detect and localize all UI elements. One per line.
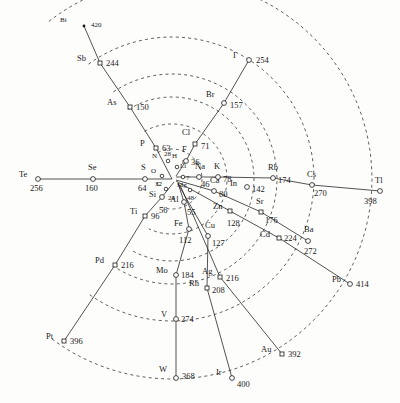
radial-line-mg-ca-sr-ba xyxy=(176,180,308,241)
periodic-spiral-figure: Bi420Sb244As150P63I254Br157Cl71F36N28H1T… xyxy=(0,0,400,403)
element-marker-si[interactable] xyxy=(160,195,165,200)
element-marker-f[interactable] xyxy=(184,159,189,164)
element-marker-bi[interactable] xyxy=(83,25,86,28)
element-marker-s[interactable] xyxy=(143,177,148,182)
element-marker-o[interactable] xyxy=(160,174,164,178)
element-marker-mg[interactable] xyxy=(188,188,192,192)
element-marker-pb[interactable] xyxy=(348,282,353,287)
element-marker-n[interactable] xyxy=(166,159,170,163)
radial-line-c-si-ti-pd-pt xyxy=(64,182,174,341)
element-marker-ti[interactable] xyxy=(143,214,147,218)
element-marker-cl[interactable] xyxy=(193,142,197,146)
radial-line-al-fe-mo-v-w xyxy=(176,183,189,378)
element-marker-v[interactable] xyxy=(174,317,179,322)
element-marker-mo[interactable] xyxy=(174,273,179,278)
element-marker-i[interactable] xyxy=(247,58,252,63)
element-marker-cs[interactable] xyxy=(310,183,315,188)
element-marker-pd[interactable] xyxy=(113,263,117,267)
element-marker-cu[interactable] xyxy=(206,234,211,239)
element-marker-w[interactable] xyxy=(174,376,179,381)
element-marker-rb[interactable] xyxy=(271,176,276,181)
element-marker-na[interactable] xyxy=(197,175,202,180)
element-marker-ir[interactable] xyxy=(230,376,235,381)
element-marker-sr[interactable] xyxy=(259,210,263,214)
element-marker-rh[interactable] xyxy=(205,286,209,290)
element-marker-cd[interactable] xyxy=(277,236,281,240)
diagram-canvas xyxy=(0,0,400,403)
element-marker-ag[interactable] xyxy=(218,275,222,279)
element-marker-te[interactable] xyxy=(36,177,41,182)
element-marker-as[interactable] xyxy=(128,105,132,109)
element-marker-se[interactable] xyxy=(91,177,96,182)
element-marker-in[interactable] xyxy=(245,185,250,190)
element-marker-tl[interactable] xyxy=(378,189,383,194)
element-marker-li[interactable] xyxy=(181,175,185,179)
element-marker-sb[interactable] xyxy=(98,61,102,65)
element-marker-c[interactable] xyxy=(164,187,168,191)
element-marker-al[interactable] xyxy=(182,200,187,205)
element-marker-au[interactable] xyxy=(280,352,284,356)
element-marker-zn[interactable] xyxy=(228,209,232,213)
element-marker-ca[interactable] xyxy=(212,189,217,194)
element-marker-ba[interactable] xyxy=(306,239,311,244)
radial-lines-layer xyxy=(38,26,380,378)
element-marker-br[interactable] xyxy=(222,101,227,106)
element-marker-k[interactable] xyxy=(216,175,221,180)
element-marker-h[interactable] xyxy=(175,165,179,169)
radial-line-zn-cd-pb xyxy=(176,181,350,284)
element-marker-fe[interactable] xyxy=(187,227,192,232)
element-markers-layer xyxy=(36,25,383,381)
element-marker-pt[interactable] xyxy=(62,339,66,343)
radial-line-n-p-as-sb-bi xyxy=(84,26,172,179)
element-marker-p[interactable] xyxy=(154,146,158,150)
